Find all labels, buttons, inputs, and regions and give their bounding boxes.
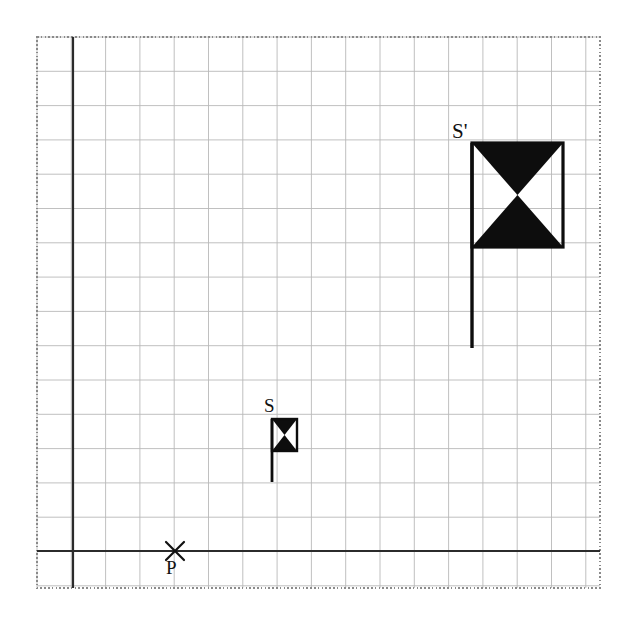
label-s: S [264,395,275,416]
dilation-figure: S S' P [0,0,635,639]
figure-canvas: S S' P [0,0,635,639]
figure-background [0,0,635,639]
label-p: P [166,557,177,578]
label-s-prime: S' [452,119,467,143]
